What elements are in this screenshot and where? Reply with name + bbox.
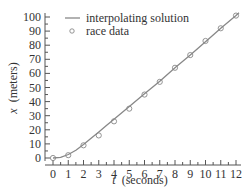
y-tick-label: 40	[29, 95, 41, 109]
y-tick-label: 70	[29, 52, 41, 66]
race-data-point	[96, 133, 101, 138]
x-tick-label: 12	[230, 167, 242, 181]
y-tick-label: 80	[29, 38, 41, 52]
x-tick-label: 2	[81, 167, 87, 181]
x-tick-label: 11	[215, 167, 227, 181]
y-tick-label: 90	[29, 24, 41, 38]
y-axis: 0102030405060708090100	[23, 10, 50, 165]
y-tick-label: 10	[29, 137, 41, 151]
x-tick-label: 0	[50, 167, 56, 181]
y-tick-label: 50	[29, 81, 41, 95]
legend-label-interpolating-solution: interpolating solution	[86, 11, 189, 25]
interpolating-solution-line	[53, 13, 239, 158]
x-tick-label: 9	[187, 167, 193, 181]
x-axis-variable: t	[112, 173, 116, 187]
x-axis-label: t (seconds)	[112, 173, 167, 187]
y-axis-unit: (meters)	[6, 62, 20, 102]
y-tick-label: 60	[29, 66, 41, 80]
distance-time-chart: 0102030405060708090100 0123456789101112 …	[0, 0, 251, 187]
x-tick-label: 1	[65, 167, 71, 181]
y-axis-variable: x	[6, 108, 20, 115]
y-tick-label: 30	[29, 109, 41, 123]
y-tick-label: 100	[23, 10, 41, 24]
x-tick-label: 3	[96, 167, 102, 181]
x-tick-label: 8	[172, 167, 178, 181]
plot-area	[50, 13, 239, 161]
x-axis-unit: (seconds)	[122, 173, 168, 187]
y-axis-label: x (meters)	[6, 62, 20, 114]
legend-marker-race-data-icon	[70, 29, 74, 33]
y-tick-label: 0	[35, 151, 41, 165]
legend: interpolating solution race data	[65, 11, 189, 38]
x-tick-label: 10	[200, 167, 212, 181]
legend-label-race-data: race data	[86, 24, 130, 38]
y-tick-label: 20	[29, 123, 41, 137]
